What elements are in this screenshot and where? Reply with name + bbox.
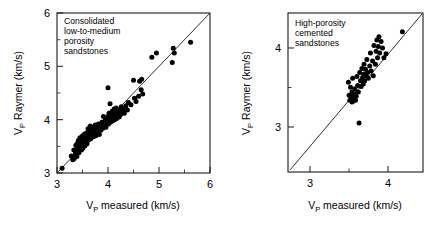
right-yaxis-title-rest: Raymer (km/s): [240, 51, 252, 123]
data-point: [97, 132, 102, 137]
panel-left-consolidated: 3 4 5 6 3 4 5 6 VP measured (km/s) VP Ra…: [0, 0, 222, 227]
right-yaxis-title-v: V: [240, 128, 252, 135]
left-annotation: Consolidated low-to-medium porosity sand…: [64, 16, 120, 56]
data-point: [369, 68, 374, 73]
data-point: [362, 62, 367, 67]
right-yaxis-title: VP Raymer (km/s): [240, 51, 255, 135]
left-ytick-label: 6: [44, 7, 50, 19]
left-xaxis-title-v: V: [86, 199, 93, 211]
right-yaxis-ticks: [288, 48, 294, 127]
left-annotation-line: Consolidated: [64, 16, 114, 26]
data-point: [400, 29, 405, 34]
data-point: [350, 76, 355, 81]
left-ytick-label: 4: [44, 114, 50, 126]
data-point: [140, 92, 145, 97]
data-point: [376, 34, 381, 39]
right-xtick-label: 4: [385, 177, 391, 189]
figure-scatter-pair: 3 4 5 6 3 4 5 6 VP measured (km/s) VP Ra…: [0, 0, 444, 227]
data-point: [377, 50, 382, 55]
left-data-points: [60, 40, 194, 171]
left-yaxis-title-rest: Raymer (km/s): [12, 51, 24, 123]
left-yaxis-title: VP Raymer (km/s): [12, 51, 27, 135]
data-point: [375, 55, 380, 60]
data-point: [131, 78, 136, 83]
svg-text:VP Raymer (km/s): VP Raymer (km/s): [12, 51, 27, 135]
data-point: [371, 43, 376, 48]
svg-text:VP measured (km/s): VP measured (km/s): [308, 199, 402, 214]
data-point: [357, 121, 362, 126]
svg-text:VP Raymer (km/s): VP Raymer (km/s): [240, 51, 255, 135]
data-point: [171, 46, 176, 51]
svg-text:VP measured (km/s): VP measured (km/s): [86, 199, 180, 214]
data-point: [364, 57, 369, 62]
right-ytick-label: 4: [275, 42, 281, 54]
data-point: [348, 85, 353, 90]
data-point: [134, 99, 139, 104]
data-point: [368, 50, 373, 55]
left-xtick-label: 3: [54, 178, 60, 190]
data-point: [346, 80, 351, 85]
data-point: [188, 40, 193, 45]
data-point: [149, 55, 154, 60]
left-annotation-line: porosity: [64, 36, 95, 46]
data-point: [125, 108, 130, 113]
right-xtick-label: 3: [307, 177, 313, 189]
data-point: [106, 85, 111, 90]
left-xaxis-title: VP measured (km/s): [86, 199, 180, 214]
data-point: [60, 166, 65, 171]
left-xtick-label: 5: [156, 178, 162, 190]
right-annotation-line: High-porosity: [295, 18, 346, 28]
data-point: [384, 51, 389, 56]
right-annotation-line: cemented: [295, 28, 333, 38]
data-point: [379, 39, 384, 44]
data-point: [170, 60, 175, 65]
data-point: [371, 73, 376, 78]
right-ytick-label: 3: [275, 121, 281, 133]
data-point: [128, 102, 133, 107]
right-xaxis-title-v: V: [308, 199, 315, 211]
right-data-points: [346, 29, 405, 125]
left-xtick-label: 4: [105, 178, 111, 190]
data-point: [139, 77, 144, 82]
left-yticklabels: 3 4 5 6: [44, 7, 50, 179]
data-point: [367, 64, 372, 69]
left-ytick-label: 5: [44, 60, 50, 72]
data-point: [376, 44, 381, 49]
left-yaxis-title-v: V: [12, 128, 24, 135]
right-xaxis-title-rest: measured (km/s): [320, 199, 402, 211]
data-point: [108, 101, 113, 106]
data-point: [354, 74, 359, 79]
right-plot-svg: 3 4 3 4 VP measured (km/s) VP Raymer (km…: [222, 0, 444, 227]
left-annotation-line: low-to-medium: [64, 26, 120, 36]
right-xaxis-title: VP measured (km/s): [308, 199, 402, 214]
data-point: [380, 46, 385, 51]
data-point: [356, 90, 361, 95]
data-point: [154, 51, 159, 56]
left-xaxis-title-rest: measured (km/s): [98, 199, 180, 211]
right-yticklabels: 3 4: [275, 42, 281, 133]
right-annotation: High-porosity cemented sandstones: [295, 18, 346, 48]
left-ytick-label: 3: [44, 167, 50, 179]
right-annotation-line: sandstones: [295, 38, 339, 48]
left-yaxis-ticks: [57, 13, 63, 173]
right-xaxis-ticks: [310, 166, 388, 172]
data-point: [373, 62, 378, 67]
panel-right-high-porosity: 3 4 3 4 VP measured (km/s) VP Raymer (km…: [222, 0, 444, 227]
data-point: [139, 87, 144, 92]
left-annotation-line: sandstones: [64, 46, 108, 56]
left-xticklabels: 3 4 5 6: [54, 178, 213, 190]
data-point: [366, 76, 371, 81]
left-plot-svg: 3 4 5 6 3 4 5 6 VP measured (km/s) VP Ra…: [0, 0, 222, 227]
right-xticklabels: 3 4: [307, 177, 391, 189]
data-point: [172, 51, 177, 56]
left-xtick-label: 6: [207, 178, 213, 190]
left-xaxis-ticks: [57, 167, 210, 173]
